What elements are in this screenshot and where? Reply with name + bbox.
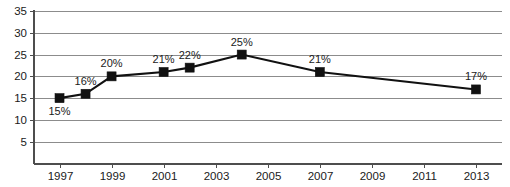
- data-point-label: 15%: [49, 105, 71, 117]
- data-point-label: 20%: [101, 57, 123, 69]
- data-point-marker: [471, 85, 480, 94]
- y-tick-label: 15: [14, 92, 27, 104]
- x-axis-tick-labels: 199719992001200320052007200920112013: [48, 170, 490, 182]
- data-point-marker: [107, 72, 116, 81]
- data-point-label: 25%: [231, 36, 253, 48]
- x-tick-label: 2013: [464, 170, 490, 182]
- y-tick-label: 30: [14, 27, 27, 39]
- x-tick-label: 1997: [48, 170, 74, 182]
- data-point-label: 21%: [153, 53, 175, 65]
- x-tick-label: 2007: [308, 170, 334, 182]
- data-point-marker: [237, 50, 246, 59]
- x-tick-label: 2009: [360, 170, 386, 182]
- data-point-label: 16%: [75, 75, 97, 87]
- data-point-label: 21%: [309, 53, 331, 65]
- x-tick-label: 1999: [100, 170, 126, 182]
- data-point-marker: [185, 63, 194, 72]
- data-point-label: 17%: [465, 70, 487, 82]
- chart-canvas: 5101520253035 19971999200120032005200720…: [0, 0, 510, 187]
- chart-background: [0, 0, 510, 187]
- y-tick-label: 5: [21, 136, 27, 148]
- y-tick-label: 10: [14, 114, 27, 126]
- data-point-marker: [81, 89, 90, 98]
- data-point-marker: [315, 68, 324, 77]
- data-point-marker: [159, 68, 168, 77]
- x-tick-label: 2005: [256, 170, 282, 182]
- data-point-label: 22%: [179, 49, 201, 61]
- x-tick-label: 2011: [412, 170, 437, 182]
- y-tick-label: 20: [14, 70, 27, 82]
- y-tick-label: 25: [14, 49, 27, 61]
- x-tick-label: 2003: [204, 170, 230, 182]
- x-tick-label: 2001: [152, 170, 178, 182]
- y-tick-label: 35: [14, 5, 27, 17]
- line-chart: 5101520253035 19971999200120032005200720…: [0, 0, 510, 187]
- data-point-marker: [55, 94, 64, 103]
